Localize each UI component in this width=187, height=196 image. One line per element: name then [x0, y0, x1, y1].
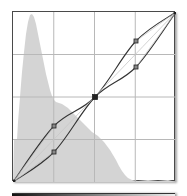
- black-endpoint[interactable]: [13, 180, 15, 182]
- white-endpoint[interactable]: [174, 12, 176, 14]
- upper-left-point[interactable]: [52, 124, 56, 128]
- helper-line: [136, 12, 176, 67]
- lower-right-point[interactable]: [134, 65, 138, 69]
- output-gradient-bar: [12, 193, 175, 196]
- center-point[interactable]: [93, 95, 98, 100]
- lower-left-point[interactable]: [52, 150, 56, 154]
- helper-line: [136, 12, 176, 41]
- upper-right-point[interactable]: [134, 39, 138, 43]
- curves-graph[interactable]: [13, 12, 176, 182]
- curves-graph-panel[interactable]: [12, 11, 175, 181]
